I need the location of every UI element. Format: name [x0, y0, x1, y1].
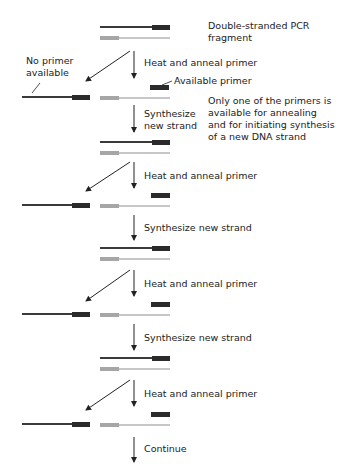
note-line-3: and for initiating synthesis [208, 119, 335, 131]
note-line-4: of a new DNA strand [208, 131, 306, 143]
step-2-label: Synthesize [144, 108, 196, 120]
duplex-1 [100, 25, 170, 40]
step-1-label: Heat and anneal primer [144, 57, 257, 69]
duplex-3 [86, 246, 170, 301]
separated-4 [22, 412, 170, 462]
label-no-primer: No primer [26, 55, 74, 67]
label-start: Double-stranded PCR [208, 20, 309, 32]
step-7-label: Heat and anneal primer [144, 388, 257, 400]
label-start-2: fragment [208, 32, 252, 44]
label-no-primer-2: available [26, 67, 69, 79]
step-5-label: Heat and anneal primer [144, 278, 257, 290]
note-line-1: Only one of the primers is [208, 95, 331, 107]
step-4-label: Synthesize new strand [144, 222, 252, 234]
step-2-label-2: new strand [144, 120, 197, 132]
duplex-4 [86, 356, 170, 410]
label-available-primer: Available primer [174, 75, 252, 87]
step-3-label: Heat and anneal primer [144, 170, 257, 182]
step-6-label: Synthesize new strand [144, 332, 252, 344]
note-line-2: available for annealing [208, 107, 317, 119]
duplex-2 [86, 140, 170, 191]
step-8-label: Continue [144, 443, 187, 455]
